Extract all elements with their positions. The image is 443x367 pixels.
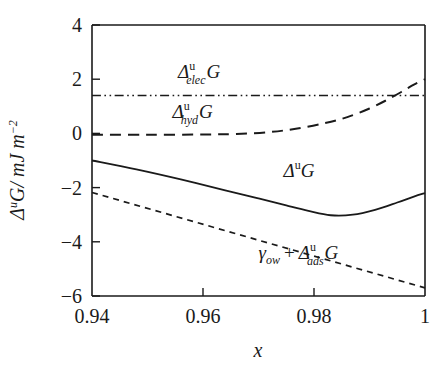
chart-svg: 420−2−4−60.940.960.981 ΔuG/ mJ m−2 x Δue… — [0, 0, 443, 367]
x-tick-label: 0.94 — [75, 305, 110, 327]
x-tick-label: 1 — [420, 305, 430, 327]
curve-label-ads: γow+ΔuadsG — [259, 240, 339, 268]
curve-label-elec: ΔuelecG — [177, 59, 220, 87]
y-tick-label: −6 — [61, 285, 82, 307]
y-tick-label: −4 — [61, 231, 82, 253]
y-tick-label: 0 — [72, 122, 82, 144]
curve-label-hyd: ΔuhydG — [171, 99, 212, 127]
x-axis-title: x — [253, 339, 263, 361]
tick-labels: 420−2−4−60.940.960.981 — [61, 14, 430, 327]
curve-label-total: ΔuG — [282, 158, 314, 181]
x-tick-label: 0.98 — [297, 305, 332, 327]
curve-hyd — [92, 79, 425, 135]
svg-text:ΔuG/ mJ m−2: ΔuG/ mJ m−2 — [6, 120, 28, 221]
figure-container: 420−2−4−60.940.960.981 ΔuG/ mJ m−2 x Δue… — [0, 0, 443, 367]
y-tick-label: −2 — [61, 177, 82, 199]
y-tick-label: 2 — [72, 68, 82, 90]
curve-total — [92, 161, 425, 216]
y-tick-label: 4 — [72, 14, 82, 36]
curve-ads — [92, 192, 425, 287]
y-axis-title: ΔuG/ mJ m−2 — [6, 120, 28, 221]
x-tick-label: 0.96 — [186, 305, 221, 327]
tick-marks — [92, 25, 314, 296]
